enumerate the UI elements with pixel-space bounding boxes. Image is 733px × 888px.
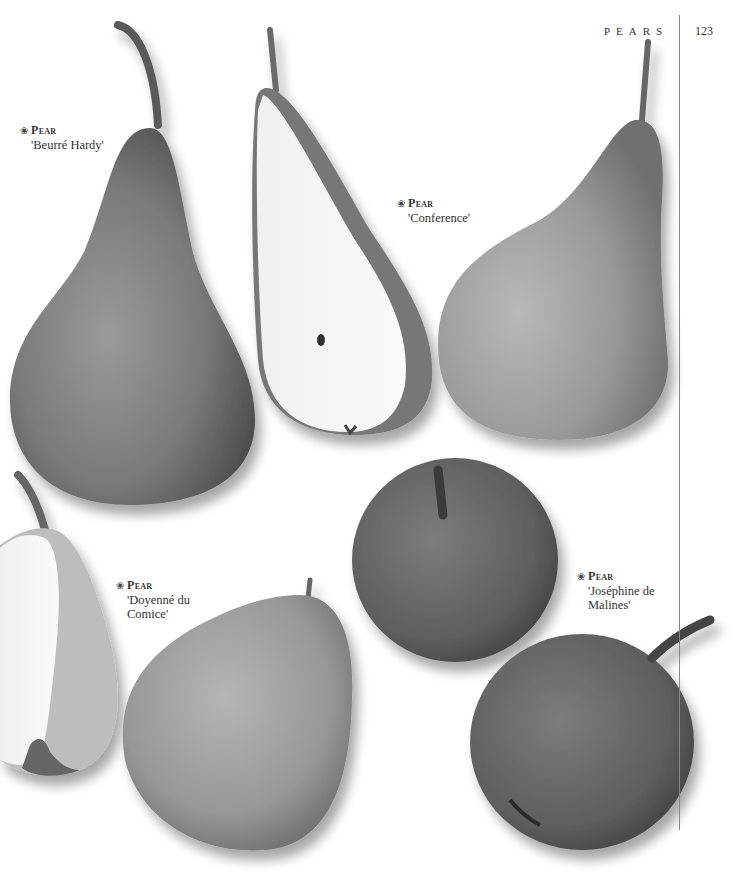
caption-cultivar-name: 'Conference' — [397, 211, 470, 225]
flower-icon: ❀ — [397, 198, 405, 209]
pear-illustrations — [0, 0, 733, 888]
caption-cultivar-name-line2: Comice' — [116, 607, 190, 621]
caption-kind: Pear — [588, 569, 613, 583]
pear-beurre-hardy-image — [10, 25, 255, 505]
caption-cultivar-name: 'Beurré Hardy' — [20, 138, 104, 152]
caption-cultivar-name-line2: Malines' — [577, 598, 654, 612]
pear-josephine-side-image — [470, 620, 710, 850]
caption-kind: Pear — [408, 196, 433, 210]
caption-kind: Pear — [31, 123, 56, 137]
caption-beurre-hardy: ❀Pear 'Beurré Hardy' — [20, 123, 104, 152]
caption-kind: Pear — [127, 578, 152, 592]
page-number: 123 — [695, 24, 713, 39]
pear-conference-halved-image — [252, 30, 432, 435]
running-header-title: PEARS — [604, 25, 668, 37]
pear-conference-whole-image — [438, 42, 668, 440]
caption-doyenne-du-comice: ❀Pear 'Doyenné du Comice' — [116, 578, 190, 621]
caption-cultivar-name-line1: 'Doyenné du — [116, 593, 190, 607]
flower-icon: ❀ — [20, 125, 28, 136]
pear-doyenne-halved-image — [0, 475, 118, 776]
margin-rule — [679, 15, 680, 830]
flower-icon: ❀ — [116, 580, 124, 591]
pear-josephine-top-image — [352, 458, 558, 662]
caption-conference: ❀Pear 'Conference' — [397, 196, 470, 225]
caption-josephine-de-malines: ❀Pear 'Joséphine de Malines' — [577, 569, 654, 612]
flower-icon: ❀ — [577, 571, 585, 582]
caption-cultivar-name-line1: 'Joséphine de — [577, 584, 654, 598]
